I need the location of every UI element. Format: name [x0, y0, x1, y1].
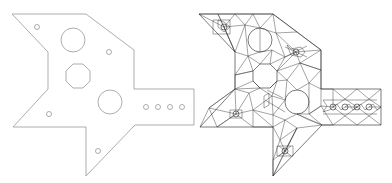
plate-outline-panel — [12, 14, 194, 176]
small-hole — [156, 105, 161, 110]
mesh-triangles — [199, 14, 381, 176]
octagon-hole — [66, 64, 90, 88]
small-hole — [180, 105, 185, 110]
small-hole — [47, 112, 52, 117]
figure-canvas — [0, 0, 392, 183]
mesh-hole-bottom — [285, 90, 309, 114]
plate-boundary — [12, 14, 194, 176]
large-hole-bottom — [98, 90, 122, 114]
small-hole — [168, 105, 173, 110]
small-hole — [144, 105, 149, 110]
mesh-boundary — [199, 14, 381, 176]
small-hole — [35, 25, 40, 30]
plate-mesh-panel — [199, 14, 381, 176]
mesh-dense-clusters — [213, 20, 381, 156]
small-hole — [96, 149, 101, 154]
large-hole-top — [61, 28, 85, 52]
small-hole — [107, 50, 112, 55]
